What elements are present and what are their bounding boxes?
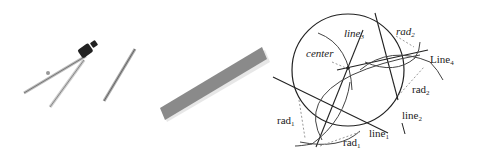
rad2-right-label: rad2 bbox=[412, 83, 430, 97]
rad2-top-label: rad2 bbox=[396, 25, 415, 39]
pencil-icon bbox=[104, 49, 135, 101]
center-point bbox=[347, 67, 350, 70]
line1-label: line1 bbox=[369, 127, 390, 141]
center-label: center bbox=[306, 47, 334, 59]
rad1-left-label: rad1 bbox=[277, 114, 295, 128]
line4-label: Line4 bbox=[430, 53, 454, 67]
line2-label: line2 bbox=[402, 109, 423, 123]
ruler-icon bbox=[160, 47, 270, 122]
figure: center line3 rad2 Line4 rad2 line2 rad1 … bbox=[0, 0, 481, 159]
line3-label: line3 bbox=[344, 27, 365, 41]
rad1-bottom-label: rad1 bbox=[343, 136, 361, 150]
compass-icon bbox=[24, 40, 98, 107]
